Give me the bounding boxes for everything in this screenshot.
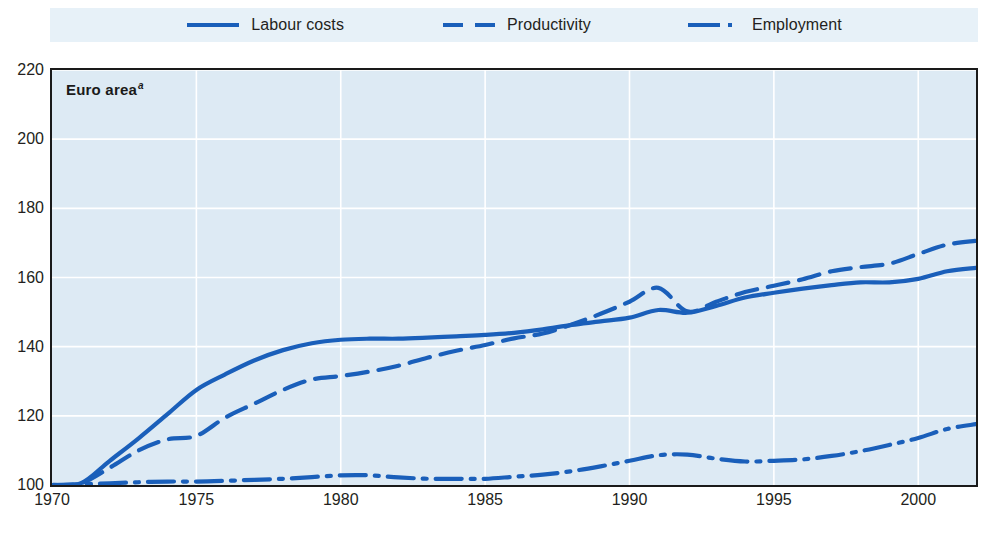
x-tick-label-1980: 1980 bbox=[323, 492, 359, 508]
x-tick-label-1975: 1975 bbox=[179, 492, 215, 508]
chart-figure: Labour costs Productivity Employment bbox=[0, 0, 998, 553]
x-tick-label-1985: 1985 bbox=[467, 492, 503, 508]
x-tick-label-1970: 1970 bbox=[34, 492, 70, 508]
x-axis-labels: 1970197519801985199019952000 bbox=[0, 0, 998, 553]
x-tick-label-2000: 2000 bbox=[900, 492, 936, 508]
x-tick-label-1990: 1990 bbox=[612, 492, 648, 508]
x-tick-label-1995: 1995 bbox=[756, 492, 792, 508]
